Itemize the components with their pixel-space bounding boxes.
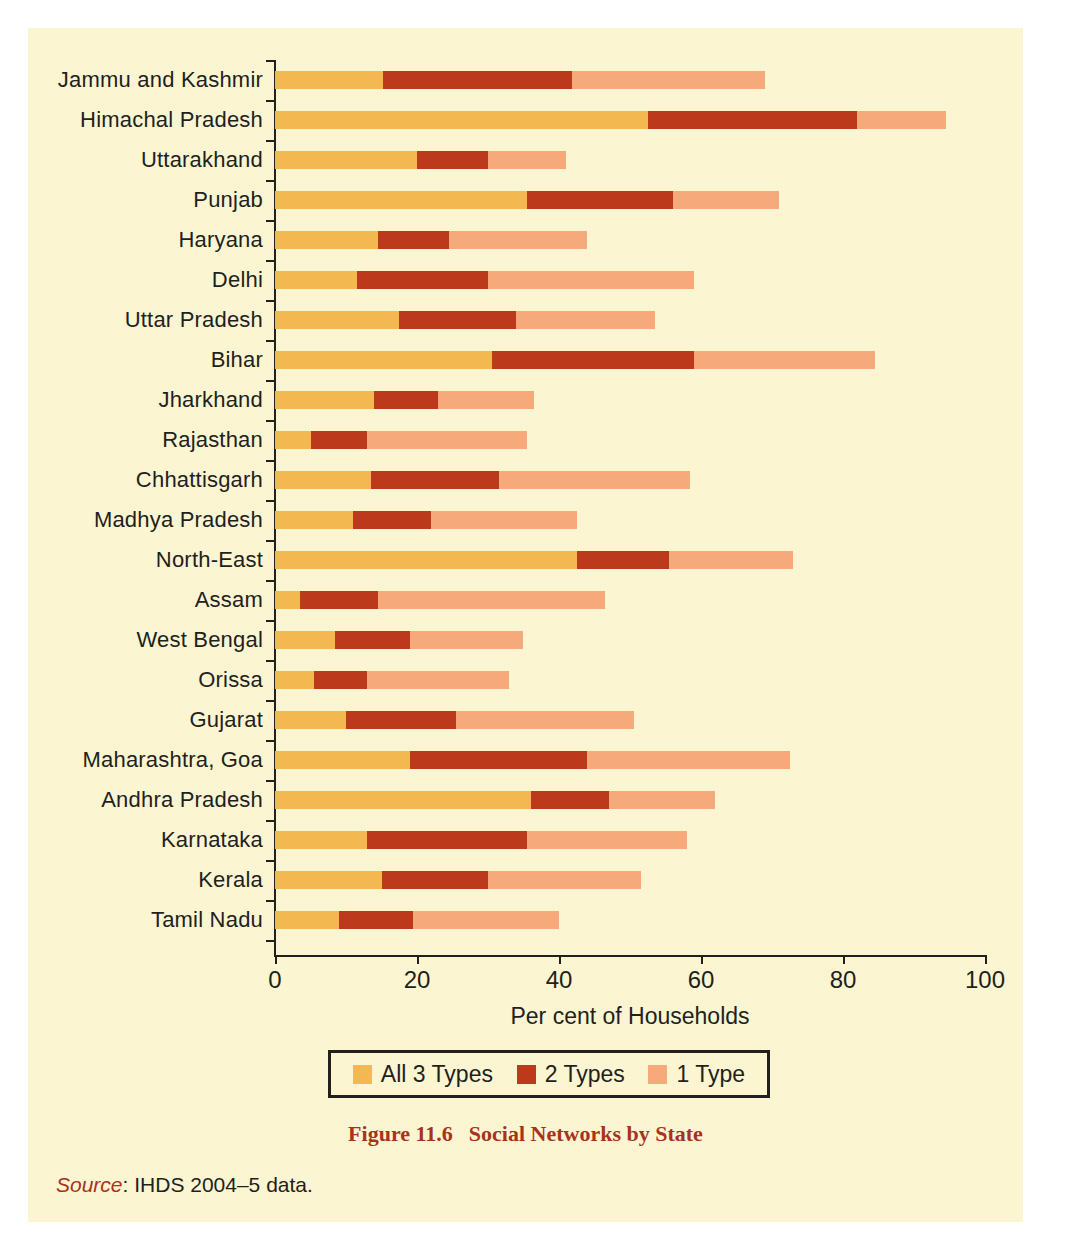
figure-number: Figure 11.6 — [348, 1121, 453, 1146]
y-axis-tick-label: Uttarakhand — [141, 147, 263, 173]
y-axis-tick — [266, 420, 275, 422]
bar-segment — [275, 431, 311, 449]
bar-row: Maharashtra, Goa — [275, 740, 985, 780]
bar-row: Bihar — [275, 340, 985, 380]
bar-row: Uttar Pradesh — [275, 300, 985, 340]
bar-segment — [413, 911, 559, 929]
stacked-bar — [275, 351, 875, 369]
y-axis-tick — [266, 860, 275, 862]
bar-segment — [275, 71, 383, 89]
stacked-bar — [275, 391, 534, 409]
x-axis-line — [274, 955, 985, 957]
stacked-bar — [275, 471, 690, 489]
stacked-bar — [275, 551, 793, 569]
stacked-bar — [275, 871, 641, 889]
y-axis-tick-label: Kerala — [198, 867, 263, 893]
bar-row: Jammu and Kashmir — [275, 60, 985, 100]
legend-swatch-icon — [648, 1065, 667, 1084]
bar-row: Andhra Pradesh — [275, 780, 985, 820]
y-axis-tick — [266, 900, 275, 902]
stacked-bar — [275, 431, 527, 449]
bar-row: Karnataka — [275, 820, 985, 860]
bar-segment — [431, 511, 577, 529]
bar-segment — [577, 551, 669, 569]
bar-segment — [456, 711, 634, 729]
bar-segment — [275, 711, 346, 729]
y-axis-tick-label: Tamil Nadu — [151, 907, 263, 933]
y-axis-tick-label: Jammu and Kashmir — [58, 67, 263, 93]
legend-item: 2 Types — [517, 1061, 625, 1088]
stacked-bar-chart: Jammu and KashmirHimachal PradeshUttarak… — [28, 28, 1023, 1222]
bar-segment — [275, 671, 314, 689]
bar-segment — [410, 631, 524, 649]
x-axis-tick — [843, 955, 845, 964]
bar-segment — [371, 471, 499, 489]
bar-segment — [275, 831, 367, 849]
x-axis-tick-label: 0 — [268, 966, 281, 994]
bar-segment — [531, 791, 609, 809]
y-axis-tick — [266, 820, 275, 822]
figure-title: Social Networks by State — [469, 1121, 703, 1146]
x-axis-tick-label: 80 — [830, 966, 857, 994]
bar-segment — [275, 791, 531, 809]
stacked-bar — [275, 271, 694, 289]
bar-segment — [382, 871, 489, 889]
bar-row: Uttarakhand — [275, 140, 985, 180]
bar-row: West Bengal — [275, 620, 985, 660]
stacked-bar — [275, 751, 790, 769]
bar-row: Assam — [275, 580, 985, 620]
y-axis-tick-label: Delhi — [212, 267, 263, 293]
bar-row: Kerala — [275, 860, 985, 900]
y-axis-tick-label: Rajasthan — [162, 427, 263, 453]
stacked-bar — [275, 311, 655, 329]
bar-segment — [367, 431, 527, 449]
legend-label: 2 Types — [545, 1061, 625, 1088]
y-axis-tick — [266, 180, 275, 182]
y-axis-tick-label: Haryana — [178, 227, 263, 253]
x-axis-tick — [701, 955, 703, 964]
source-key: Source — [56, 1173, 123, 1196]
bar-segment — [648, 111, 857, 129]
bar-segment — [449, 231, 587, 249]
y-axis-tick — [266, 340, 275, 342]
y-axis-tick — [266, 260, 275, 262]
x-axis-tick — [275, 955, 277, 964]
bar-row: Madhya Pradesh — [275, 500, 985, 540]
y-axis-tick-label: North-East — [156, 547, 263, 573]
legend-swatch-icon — [353, 1065, 372, 1084]
x-axis-title: Per cent of Households — [275, 1003, 985, 1030]
y-axis-tick-label: West Bengal — [136, 627, 263, 653]
bar-segment — [275, 471, 371, 489]
bar-row: Delhi — [275, 260, 985, 300]
y-axis-tick — [266, 660, 275, 662]
bar-segment — [300, 591, 378, 609]
y-axis-tick — [266, 780, 275, 782]
bar-segment — [417, 151, 488, 169]
bar-segment — [378, 591, 605, 609]
figure-page: Jammu and KashmirHimachal PradeshUttarak… — [28, 28, 1023, 1222]
bar-segment — [488, 871, 641, 889]
bar-segment — [357, 271, 488, 289]
stacked-bar — [275, 71, 765, 89]
stacked-bar — [275, 671, 509, 689]
legend-item: All 3 Types — [353, 1061, 493, 1088]
stacked-bar — [275, 231, 587, 249]
x-axis-tick-label: 60 — [688, 966, 715, 994]
bar-row: Punjab — [275, 180, 985, 220]
bar-segment — [275, 111, 648, 129]
bar-segment — [492, 351, 694, 369]
y-axis-tick-label: Gujarat — [189, 707, 263, 733]
plot-area: Jammu and KashmirHimachal PradeshUttarak… — [275, 60, 985, 955]
y-axis-tick-label: Punjab — [193, 187, 263, 213]
bar-segment — [374, 391, 438, 409]
legend-swatch-icon — [517, 1065, 536, 1084]
bar-segment — [275, 591, 300, 609]
y-axis-tick — [266, 100, 275, 102]
y-axis-tick-label: Orissa — [198, 667, 263, 693]
bar-row: Himachal Pradesh — [275, 100, 985, 140]
x-axis-tick-label: 40 — [546, 966, 573, 994]
bar-segment — [275, 151, 417, 169]
bar-segment — [572, 71, 765, 89]
legend-item: 1 Type — [648, 1061, 745, 1088]
legend-label: 1 Type — [676, 1061, 745, 1088]
